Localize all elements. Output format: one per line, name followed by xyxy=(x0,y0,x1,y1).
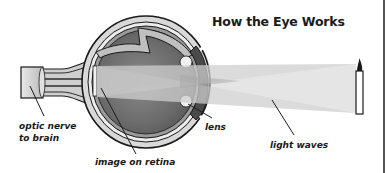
label-image-on-retina: image on retina xyxy=(95,156,175,168)
label-lens: lens xyxy=(205,121,226,133)
label-optic-nerve-line2: to brain xyxy=(19,132,76,144)
label-optic-nerve: optic nerve to brain xyxy=(19,120,76,144)
right-border xyxy=(383,0,385,173)
retina-image-icon xyxy=(93,66,97,96)
label-optic-nerve-line1: optic nerve xyxy=(19,120,76,132)
label-light-waves: light waves xyxy=(270,139,328,151)
diagram-title: How the Eye Works xyxy=(212,14,345,29)
candle-icon xyxy=(356,58,363,114)
